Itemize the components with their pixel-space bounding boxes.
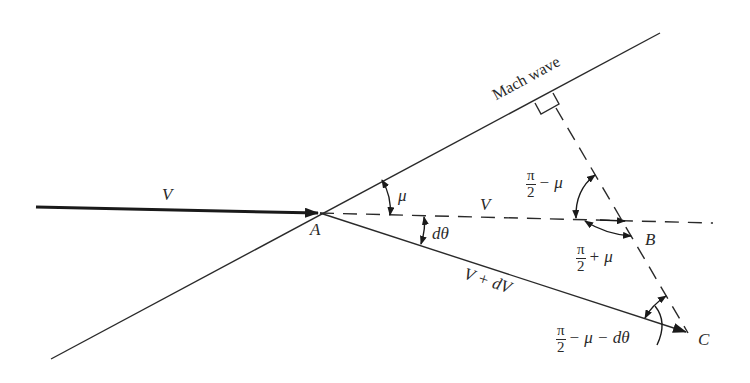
dashed-velocity-line bbox=[320, 213, 713, 223]
diagram-canvas: V A μ dθ V V + dV Mach wave B C π 2 − μ … bbox=[0, 0, 750, 383]
deflected-velocity-arrow bbox=[320, 213, 686, 332]
mach-wave-line bbox=[51, 33, 660, 359]
incoming-velocity-label: V bbox=[162, 186, 172, 203]
pi-over-2-plus-mu-label: π 2 + μ bbox=[576, 242, 613, 275]
point-b-label: B bbox=[645, 231, 655, 248]
dtheta-label: dθ bbox=[432, 225, 449, 242]
pi-over-2-plus-mu-arc bbox=[585, 221, 631, 236]
point-a-label: A bbox=[310, 221, 320, 238]
fraction: π 2 bbox=[576, 242, 586, 275]
pi-over-2-minus-mu-minus-dtheta-label: π 2 − μ − dθ bbox=[556, 323, 630, 356]
diagram-lines bbox=[0, 0, 750, 383]
mu-angle-arc bbox=[382, 180, 390, 215]
pi-over-2-minus-mu-label: π 2 − μ bbox=[526, 168, 563, 201]
pi-over-2-minus-mu-minus-dtheta-arc bbox=[655, 306, 662, 345]
right-angle-marker bbox=[535, 93, 559, 114]
pi-over-2-minus-mu-arc bbox=[576, 175, 595, 218]
fraction: π 2 bbox=[556, 323, 566, 356]
incoming-velocity-arrow bbox=[36, 207, 318, 213]
point-c-label: C bbox=[698, 331, 709, 348]
dtheta-angle-arc bbox=[421, 217, 425, 244]
mu-label: μ bbox=[398, 187, 407, 204]
b-direction-arrow bbox=[600, 220, 625, 221]
fraction: π 2 bbox=[526, 168, 536, 201]
dashed-velocity-label: V bbox=[480, 196, 490, 213]
